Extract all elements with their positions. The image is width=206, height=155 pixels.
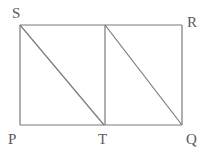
diagonal-ST	[20, 25, 104, 125]
geometry-diagram: S R P T Q	[0, 0, 206, 155]
label-T: T	[98, 131, 107, 147]
label-S: S	[12, 5, 20, 21]
label-P: P	[8, 131, 16, 147]
diagonal-top-Q	[105, 25, 182, 125]
label-Q: Q	[186, 131, 197, 147]
label-R: R	[187, 14, 197, 30]
